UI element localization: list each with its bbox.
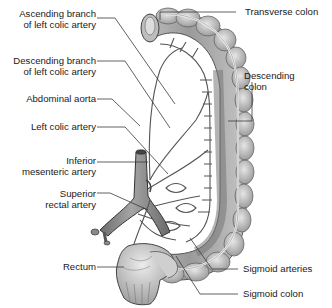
label-abdominal-aorta: Abdominal aorta bbox=[26, 93, 96, 104]
label-rectum: Rectum bbox=[63, 261, 96, 272]
anatomy-illustration bbox=[0, 0, 332, 308]
label-descending-colon: Descending colon bbox=[244, 70, 295, 92]
label-descending-branch: Descending branch of left colic artery bbox=[13, 55, 96, 77]
label-sigmoid-colon: Sigmoid colon bbox=[243, 288, 303, 299]
label-inferior-mesenteric-artery: Inferior mesenteric artery bbox=[22, 155, 96, 177]
label-ascending-branch: Ascending branch of left colic artery bbox=[19, 8, 96, 30]
label-transverse-colon: Transverse colon bbox=[245, 6, 318, 17]
label-sigmoid-arteries: Sigmoid arteries bbox=[243, 263, 312, 274]
colon-blood-supply-diagram: Ascending branch of left colic artery De… bbox=[0, 0, 332, 308]
label-superior-rectal-artery: Superior rectal artery bbox=[45, 188, 96, 210]
label-left-colic-artery: Left colic artery bbox=[31, 121, 96, 132]
rectum-shape bbox=[116, 244, 177, 305]
